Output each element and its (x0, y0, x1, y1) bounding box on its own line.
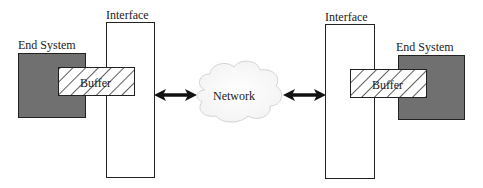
network-label: Network (213, 89, 255, 103)
right-end-system-label: End System (396, 40, 454, 54)
right-double-arrow (283, 89, 326, 101)
right-buffer-label: Buffer (372, 78, 403, 92)
left-buffer: Buffer (59, 68, 135, 96)
right-buffer: Buffer (351, 70, 427, 98)
left-interface-label: Interface (106, 8, 149, 22)
right-interface-label: Interface (325, 10, 368, 24)
network-cloud: Network (197, 61, 282, 122)
network-buffer-diagram: End System Interface Buffer Network Inte… (0, 0, 483, 188)
left-double-arrow (154, 89, 197, 101)
left-buffer-label: Buffer (80, 76, 111, 90)
left-end-system-label: End System (18, 38, 76, 52)
